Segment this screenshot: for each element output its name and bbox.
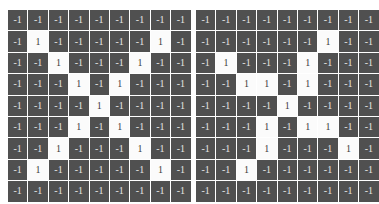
matrix-cell: -1 — [49, 117, 68, 137]
matrix-cell: -1 — [151, 181, 170, 201]
matrix-cell: -1 — [110, 96, 129, 116]
matrix-cell: -1 — [8, 53, 27, 73]
matrix-cell: -1 — [278, 74, 297, 94]
matrix-cell: -1 — [359, 31, 378, 51]
matrix-cell: 1 — [110, 74, 129, 94]
matrix-cell: -1 — [8, 160, 27, 180]
matrix-cell: -1 — [318, 138, 337, 158]
matrix-cell: -1 — [28, 117, 47, 137]
matrix-cell: 1 — [237, 160, 256, 180]
matrix-cell: -1 — [196, 138, 215, 158]
matrix-cell: -1 — [339, 96, 358, 116]
right-matrix-grid: -1-1-1-1-1-1-1-1-1-1-1-1-1-1-11-1-1-11-1… — [196, 10, 379, 202]
matrix-cell: 1 — [28, 160, 47, 180]
matrix-cell: -1 — [359, 74, 378, 94]
matrix-cell: -1 — [237, 53, 256, 73]
matrix-cell: -1 — [359, 181, 378, 201]
matrix-cell: -1 — [28, 53, 47, 73]
matrix-cell: -1 — [8, 96, 27, 116]
matrix-cell: 1 — [278, 96, 297, 116]
matrix-cell: -1 — [49, 74, 68, 94]
matrix-cell: -1 — [90, 138, 109, 158]
matrix-cell: -1 — [171, 138, 190, 158]
matrix-cell: 1 — [298, 117, 317, 137]
matrix-cell: -1 — [237, 117, 256, 137]
matrix-cell: -1 — [90, 74, 109, 94]
matrix-cell: -1 — [318, 10, 337, 30]
matrix-cell: -1 — [196, 96, 215, 116]
matrix-cell: -1 — [278, 181, 297, 201]
matrix-cell: 1 — [237, 74, 256, 94]
matrix-cell: -1 — [130, 117, 149, 137]
matrix-cell: 1 — [90, 96, 109, 116]
matrix-cell: -1 — [318, 53, 337, 73]
matrix-cell: -1 — [339, 31, 358, 51]
matrix-cell: -1 — [49, 160, 68, 180]
matrix-cell: -1 — [8, 181, 27, 201]
matrix-cell: 1 — [49, 53, 68, 73]
matrix-cell: -1 — [339, 160, 358, 180]
matrix-cell: -1 — [339, 10, 358, 30]
matrix-cell: -1 — [196, 53, 215, 73]
matrix-cell: -1 — [196, 181, 215, 201]
matrix-cell: -1 — [171, 181, 190, 201]
matrix-cell: 1 — [130, 53, 149, 73]
matrix-cell: -1 — [359, 138, 378, 158]
matrix-cell: -1 — [171, 31, 190, 51]
matrix-cell: -1 — [171, 117, 190, 137]
matrix-cell: -1 — [216, 74, 235, 94]
matrix-cell: -1 — [237, 181, 256, 201]
matrix-cell: -1 — [151, 53, 170, 73]
matrix-cell: -1 — [278, 53, 297, 73]
matrix-cell: -1 — [69, 181, 88, 201]
matrix-cell: 1 — [69, 117, 88, 137]
matrix-cell: 1 — [257, 138, 276, 158]
matrix-cell: -1 — [130, 181, 149, 201]
matrix-cell: -1 — [8, 74, 27, 94]
matrix-cell: -1 — [359, 96, 378, 116]
matrix-cell: -1 — [216, 181, 235, 201]
matrix-cell: -1 — [318, 96, 337, 116]
matrix-cell: -1 — [298, 181, 317, 201]
matrix-cell: -1 — [69, 160, 88, 180]
matrix-cell: -1 — [90, 53, 109, 73]
matrix-cell: -1 — [28, 74, 47, 94]
matrix-visualization-page: -1-1-1-1-1-1-1-1-1-11-1-1-1-1-11-1-1-11-… — [0, 0, 379, 204]
matrix-cell: -1 — [216, 138, 235, 158]
matrix-cell: -1 — [278, 117, 297, 137]
matrix-cell: -1 — [278, 138, 297, 158]
matrix-cell: -1 — [49, 31, 68, 51]
matrix-cell: -1 — [196, 160, 215, 180]
matrix-cell: 1 — [298, 53, 317, 73]
matrix-cell: -1 — [110, 138, 129, 158]
matrix-cell: -1 — [28, 10, 47, 30]
matrix-cell: -1 — [130, 31, 149, 51]
matrix-cell: 1 — [69, 74, 88, 94]
matrix-cell: -1 — [298, 10, 317, 30]
matrix-cell: -1 — [237, 96, 256, 116]
matrix-cell: -1 — [298, 31, 317, 51]
matrix-cell: -1 — [69, 10, 88, 30]
matrix-cell: -1 — [339, 181, 358, 201]
matrix-cell: -1 — [110, 160, 129, 180]
matrix-cell: -1 — [69, 31, 88, 51]
matrix-cell: -1 — [359, 53, 378, 73]
matrix-cell: -1 — [8, 10, 27, 30]
matrix-cell: -1 — [339, 53, 358, 73]
matrix-cell: 1 — [49, 138, 68, 158]
matrix-cell: -1 — [90, 181, 109, 201]
matrix-cell: -1 — [28, 96, 47, 116]
matrix-cell: -1 — [28, 181, 47, 201]
matrix-cell: -1 — [151, 138, 170, 158]
matrix-cell: -1 — [278, 31, 297, 51]
matrix-cell: -1 — [318, 74, 337, 94]
matrix-cell: -1 — [110, 53, 129, 73]
matrix-cell: -1 — [130, 96, 149, 116]
matrix-cell: -1 — [278, 160, 297, 180]
matrix-cell: -1 — [151, 117, 170, 137]
matrix-cell: -1 — [257, 53, 276, 73]
matrix-cell: -1 — [216, 10, 235, 30]
matrix-cell: -1 — [237, 10, 256, 30]
matrix-cell: -1 — [49, 10, 68, 30]
matrix-cell: 1 — [110, 117, 129, 137]
